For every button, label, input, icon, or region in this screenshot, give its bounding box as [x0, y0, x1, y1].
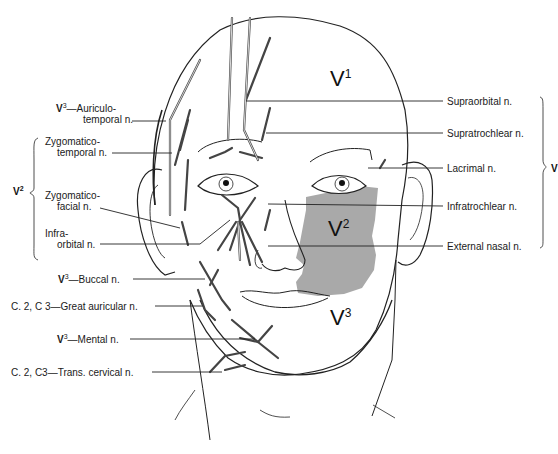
label-lacrimal: Lacrimal n. — [447, 163, 496, 174]
label-zygomaticotemporal: Zygomatico- temporal n. — [45, 136, 107, 158]
lower-lip — [242, 296, 328, 308]
label-line2: orbital n. — [45, 239, 95, 250]
label-external-nasal: External nasal n. — [447, 241, 522, 252]
zone-v2-sup: 2 — [343, 217, 350, 231]
label-supraorbital: Supraorbital n. — [447, 96, 512, 107]
zone-v3-sup: 3 — [345, 306, 352, 320]
label-prefix: V — [57, 334, 64, 345]
brace-v2-sup: 2 — [20, 185, 24, 192]
label-mental: V3—Mental n. — [57, 334, 119, 345]
label-trans-cervical: C. 2, C3—Trans. cervical n. — [11, 367, 133, 378]
label-line1: Zygomatico- — [45, 190, 100, 201]
label-text: Lacrimal n. — [447, 163, 496, 174]
label-infraorbital: Infra- orbital n. — [45, 228, 95, 250]
left-eye — [198, 174, 258, 195]
zone-v2-base: V — [328, 216, 343, 241]
label-auriculotemporal: V3—Auriculo- temporal n. — [56, 103, 133, 125]
label-line1: Zygomatico- — [45, 136, 100, 147]
label-text: Supraorbital n. — [447, 96, 512, 107]
brace-v2-base: V — [13, 186, 20, 197]
zone-v1-base: V — [330, 66, 345, 91]
v2-brace — [30, 138, 38, 260]
label-line2: temporal n. — [45, 147, 107, 158]
label-supratrochlear: Supratrochlear n. — [447, 128, 524, 139]
label-line2: temporal n. — [56, 114, 133, 125]
label-text: External nasal n. — [447, 241, 522, 252]
label-prefix: V — [58, 274, 65, 285]
label-line1: —Auriculo- — [67, 103, 116, 114]
label-zygomaticofacial: Zygomatico- facial n. — [45, 190, 100, 212]
v1-brace-right — [540, 97, 546, 248]
right-ear — [398, 162, 433, 265]
zone-v1-sup: 1 — [345, 67, 352, 81]
right-eye — [312, 176, 366, 194]
zone-label-v2: V2 — [328, 218, 349, 240]
label-buccal: V3—Buccal n. — [58, 274, 120, 285]
zone-label-v1: V1 — [330, 68, 351, 90]
right-eyebrow — [310, 149, 372, 163]
label-line2: facial n. — [45, 201, 91, 212]
label-text: Infratrochlear n. — [447, 201, 517, 212]
brace-v1-base: V — [551, 163, 558, 174]
label-text: C. 2, C3—Trans. cervical n. — [11, 367, 133, 378]
v2-brace-label: V2 — [13, 186, 24, 197]
label-text: —Mental n. — [68, 334, 119, 345]
zone-v3-base: V — [330, 305, 345, 330]
label-prefix: V — [56, 103, 63, 114]
v2-shaded-region — [296, 186, 378, 296]
zone-label-v3: V3 — [330, 307, 351, 329]
v1-brace-label: V — [551, 163, 558, 174]
label-text: Supratrochlear n. — [447, 128, 524, 139]
label-great-auricular: C. 2, C 3—Great auricular n. — [11, 301, 138, 312]
label-text: C. 2, C 3—Great auricular n. — [11, 301, 138, 312]
jaw-line — [200, 300, 392, 375]
label-infratrochlear: Infratrochlear n. — [447, 201, 517, 212]
label-line1: Infra- — [45, 228, 68, 239]
label-text: —Buccal n. — [69, 274, 120, 285]
